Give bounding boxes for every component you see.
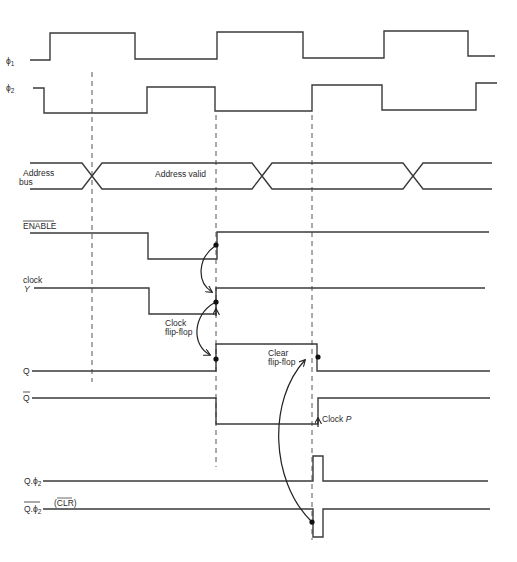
timing-diagram: ϕ1 ϕ2 Address bus Address valid ENABLE c… [0,0,517,562]
q-phi2-waveform [43,456,488,481]
q-label: Q [23,366,30,376]
event-dots [213,242,320,524]
q-waveform [32,344,490,371]
phi2-label: ϕ2 [6,83,15,94]
event-dot [309,519,314,524]
clock-p-label: Clock P [322,414,352,424]
address-bus-label-line2: bus [19,177,33,187]
q-bar-label: Q [23,393,30,403]
address-valid-text: Address valid [155,169,206,179]
clock-flip-flop-arrow [197,303,214,355]
address-bus-segment [262,163,413,189]
address-bus-segment [413,163,492,189]
enable-label: ENABLE [23,221,57,231]
dashed-markers [92,72,312,540]
q-bar-waveform [32,398,490,424]
event-dot [315,354,320,359]
q-phi2-label: Q.ϕ2 [24,476,42,487]
enable-waveform [30,232,489,259]
phi1-label: ϕ1 [6,56,15,67]
event-dot [213,242,218,247]
clock-flip-flop-line2: flip-flop [165,327,193,337]
phi2-waveform [33,83,497,113]
clock-y-waveform [34,288,485,314]
clock-y-label-line2: Y [24,284,31,294]
clear-flip-flop-arrow [279,360,311,521]
event-dot [213,356,218,361]
event-dot [213,299,218,304]
enable-to-clock-arrow [201,246,215,292]
q-phi2-bar-waveform [43,509,490,537]
q-phi2-bar-label: Q.ϕ2 [24,504,42,515]
address-bus-waveform [30,163,492,189]
clr-alias-label: (CLR) [54,498,77,508]
phi1-waveform [30,31,495,60]
clear-flip-flop-line2: flip-flop [268,357,296,367]
